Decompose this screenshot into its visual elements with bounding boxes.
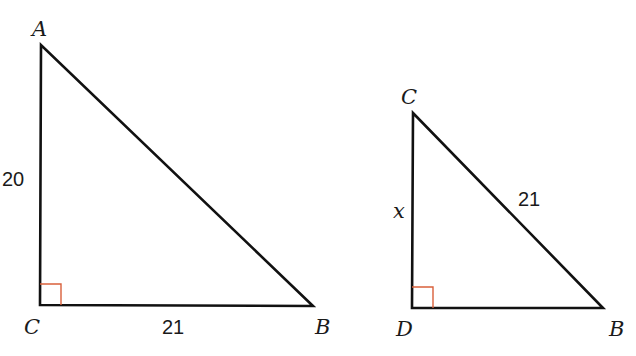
side-label-cd: x [393, 199, 405, 223]
side-label-cb: 21 [162, 316, 184, 338]
side-label-ac: 20 [2, 168, 24, 190]
vertex-label-b: B [314, 315, 330, 339]
triangle-acb: A C B 20 21 [2, 17, 330, 339]
side-label-cb2: 21 [518, 188, 540, 210]
right-angle-marker-c [40, 284, 61, 305]
right-angle-marker-d [412, 287, 433, 308]
diagram-canvas: A C B 20 21 C D B x 21 [0, 0, 636, 356]
vertex-label-d: D [395, 317, 413, 341]
triangle-acb-outline [40, 45, 313, 306]
vertex-label-c: C [24, 315, 40, 339]
vertex-label-b2: B [608, 317, 624, 341]
vertex-label-c2: C [401, 85, 417, 109]
triangle-cdb-outline [412, 113, 603, 308]
triangle-cdb: C D B x 21 [393, 85, 624, 341]
vertex-label-a: A [30, 17, 47, 41]
